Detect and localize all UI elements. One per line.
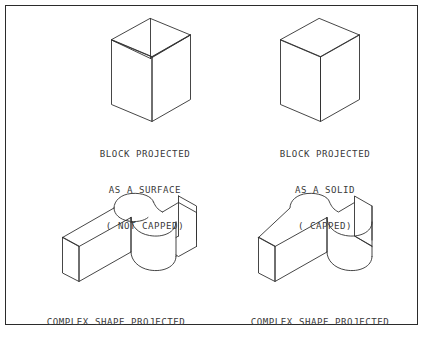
caption-top-left: BLOCK PROJECTED AS A SURFACE ( NOT CAPPE… bbox=[55, 124, 235, 256]
caption-line: ( NOT CAPPED) bbox=[55, 220, 235, 232]
caption-line: COMPLEX SHAPE PROJECTED bbox=[212, 316, 428, 328]
caption-bottom-right: COMPLEX SHAPE PROJECTED AS A SOLID ( CAP… bbox=[212, 292, 428, 337]
caption-bottom-left: COMPLEX SHAPE PROJECTED AS A SURFACE ( N… bbox=[8, 292, 224, 337]
caption-line: AS A SURFACE bbox=[55, 184, 235, 196]
caption-line: AS A SOLID bbox=[235, 184, 415, 196]
caption-line: COMPLEX SHAPE PROJECTED bbox=[8, 316, 224, 328]
figure-root: BLOCK PROJECTED AS A SURFACE ( NOT CAPPE… bbox=[0, 0, 428, 337]
caption-line: ( CAPPED) bbox=[235, 220, 415, 232]
shape-open-rectangular-block bbox=[112, 19, 191, 122]
caption-line: BLOCK PROJECTED bbox=[235, 148, 415, 160]
shape-closed-rectangular-block bbox=[281, 19, 360, 122]
caption-line: BLOCK PROJECTED bbox=[55, 148, 235, 160]
caption-top-right: BLOCK PROJECTED AS A SOLID ( CAPPED) bbox=[235, 124, 415, 256]
